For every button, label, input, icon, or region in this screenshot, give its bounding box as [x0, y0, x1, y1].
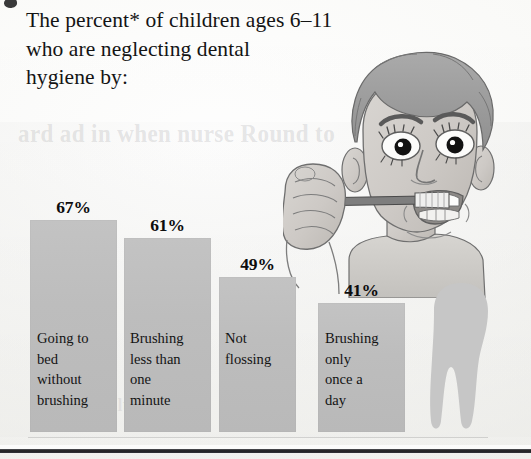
bar-value-2: 49%: [219, 254, 296, 275]
faint-divider: [28, 437, 488, 438]
headline-line-3: hygiene by:: [26, 63, 386, 92]
bar-label-3: Brushing only once a day: [325, 328, 407, 411]
bar-label-2: Not flossing: [225, 328, 297, 369]
bar-value-3: 41%: [318, 280, 405, 301]
headline-line-1: The percent* of children ages 6–11: [26, 6, 386, 35]
infographic-page: ard ad in when nurse Round to asked adul…: [0, 0, 531, 459]
headline-line-2: who are neglecting dental: [26, 35, 386, 64]
bar-value-1: 61%: [124, 215, 211, 236]
bar-label-0: Going to bed without brushing: [37, 328, 115, 411]
bottom-rule: [0, 449, 531, 453]
bar-value-0: 67%: [30, 197, 117, 218]
bar-label-1: Brushing less than one minute: [130, 328, 210, 411]
page-title: The percent* of children ages 6–11 who a…: [26, 6, 386, 92]
